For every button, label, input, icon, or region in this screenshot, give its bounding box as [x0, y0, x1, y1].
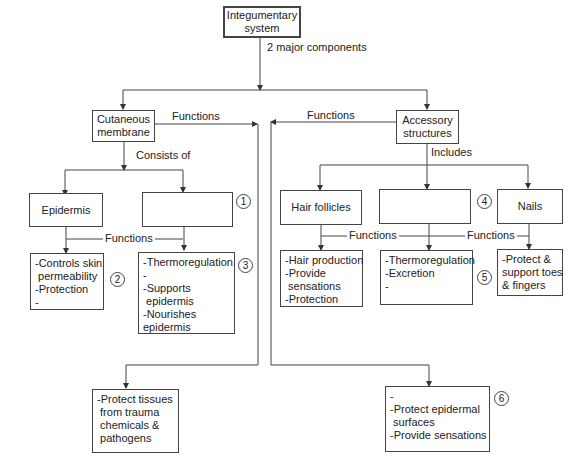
epidermis-functions-box: -Controls skin permeability -Protection … — [30, 253, 104, 310]
function-item: -Provide sensations — [390, 429, 485, 442]
function-item: epidermis — [143, 321, 230, 334]
marker-2: 2 — [110, 272, 125, 287]
node-accessory-structures: Accessory structures — [396, 110, 459, 144]
node-label: Nails — [518, 200, 542, 213]
function-item: -Protect epidermal — [390, 403, 485, 416]
marker-4: 4 — [477, 194, 492, 209]
node-cutaneous-membrane: Cutaneous membrane — [92, 110, 155, 142]
accessory-functions-box: - -Protect epidermal surfaces -Provide s… — [385, 386, 490, 452]
function-item: -Nourishes — [143, 308, 230, 321]
node-hair-follicles: Hair follicles — [280, 190, 362, 225]
function-item: permeability — [35, 270, 99, 283]
node-integumentary-system: Integumentary system — [223, 6, 301, 38]
function-item: support toes — [502, 266, 558, 279]
edge-label-cutaneous-functions: Functions — [170, 110, 222, 122]
function-item: -Protection — [35, 283, 99, 296]
function-item: -Protect tissues — [97, 393, 174, 406]
function-item: chemicals & — [97, 419, 174, 432]
edge-label-includes: Includes — [429, 146, 474, 158]
blank1-functions-box: -Thermoregulation - -Supports epidermis … — [138, 252, 235, 334]
edge-label-left-functions: Functions — [103, 232, 155, 244]
function-item: -Protect & — [502, 253, 558, 266]
marker-5: 5 — [477, 270, 492, 285]
function-item: pathogens — [97, 432, 174, 445]
function-item: - — [35, 296, 99, 309]
node-nails: Nails — [497, 189, 563, 224]
edge-label-2-major-components: 2 major components — [265, 41, 369, 53]
function-item: sensations — [285, 280, 358, 293]
blank4-functions-box: -Thermoregulation -Excretion - — [380, 250, 473, 305]
function-item: - — [385, 280, 468, 293]
node-label: Epidermis — [42, 204, 91, 217]
function-item: -Thermoregulation — [385, 254, 468, 267]
function-item: -Provide — [285, 267, 358, 280]
node-epidermis: Epidermis — [29, 193, 103, 227]
edge-label-nails-functions: Functions — [465, 229, 517, 241]
edge-label-hair-functions: Functions — [347, 229, 399, 241]
marker-3: 3 — [238, 258, 253, 273]
edge-label-consists-of: Consists of — [134, 149, 192, 161]
function-item: - — [143, 269, 230, 282]
nails-functions-box: -Protect & support toes & fingers — [497, 249, 563, 296]
function-item: - — [390, 390, 485, 403]
function-item: -Thermoregulation — [143, 256, 230, 269]
node-label: Cutaneous membrane — [93, 113, 154, 139]
function-item: from trauma — [97, 406, 174, 419]
function-item: -Protection — [285, 293, 358, 306]
node-label: Integumentary system — [225, 9, 299, 35]
node-label: Hair follicles — [291, 201, 350, 214]
node-label: Accessory structures — [397, 114, 458, 140]
edge-label-accessory-functions: Functions — [305, 109, 357, 121]
function-item: surfaces — [390, 416, 485, 429]
node-blank-1 — [142, 192, 233, 227]
marker-6: 6 — [494, 391, 509, 406]
hair-functions-box: -Hair production -Provide sensations -Pr… — [280, 250, 363, 307]
node-blank-4 — [379, 189, 471, 224]
function-item: -Hair production — [285, 254, 358, 267]
cutaneous-functions-box: -Protect tissues from trauma chemicals &… — [92, 389, 179, 453]
function-item: -Controls skin — [35, 257, 99, 270]
function-item: -Supports — [143, 282, 230, 295]
function-item: -Excretion — [385, 267, 468, 280]
marker-1: 1 — [236, 194, 251, 209]
function-item: & fingers — [502, 279, 558, 292]
function-item: epidermis — [143, 295, 230, 308]
